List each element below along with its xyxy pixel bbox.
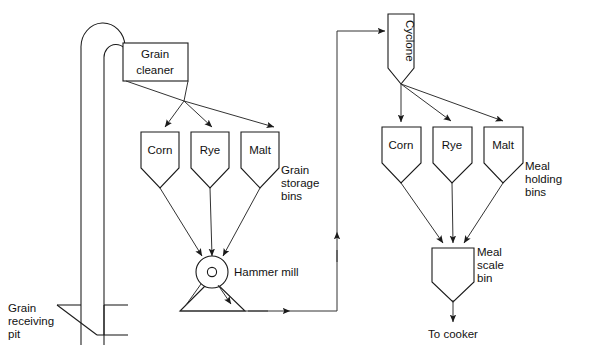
meal-holding-bins-group-label-line1: Meal: [525, 160, 550, 172]
arrow-corn-to-mill: [160, 188, 202, 256]
process-flow-diagram: Grain receiving pit Grain cleaner Corn R…: [0, 0, 590, 360]
grain-receiving-pit-label-line1: Grain: [8, 302, 36, 314]
meal-bin-malt-label: Malt: [492, 139, 515, 151]
hammer-mill-label: Hammer mill: [234, 266, 299, 278]
cyclone-distribution-lines: [401, 84, 503, 122]
hammer-mill-shape: [180, 256, 245, 311]
meal-scale-bin-label-line2: scale: [477, 259, 504, 271]
bucket-elevator: [81, 23, 128, 345]
grain-receiving-pit-shape: [57, 305, 128, 335]
arrow-cleaner-to-corn-bin: [165, 101, 184, 127]
grain-storage-bins-group-label-line1: Grain: [281, 164, 309, 176]
grain-bin-malt-label: Malt: [249, 144, 272, 156]
storage-bins-to-hammer-mill-lines: [160, 188, 260, 256]
grain-receiving-pit-label-line3: pit: [8, 328, 21, 340]
grain-cleaner-label-line2: cleaner: [136, 64, 174, 76]
grain-cleaner-label-line1: Grain: [141, 48, 169, 60]
grain-bin-rye-label: Rye: [200, 144, 220, 156]
meal-bin-corn-label: Corn: [389, 139, 414, 151]
arrow-meal-rye-to-scale: [452, 183, 453, 243]
grain-storage-bins-group-label-line2: storage: [281, 177, 319, 189]
meal-holding-bins-group-label-line3: bins: [525, 186, 546, 198]
meal-holding-bins-group-label-line2: holding: [525, 173, 562, 185]
meal-scale-bin-label-line3: bin: [477, 272, 492, 284]
grain-receiving-pit-label-line2: receiving: [8, 315, 54, 327]
grain-bin-corn: [141, 132, 179, 188]
arrow-malt-to-mill: [223, 188, 260, 256]
meal-scale-bin-label-line1: Meal: [477, 246, 502, 258]
cyclone-label: Cyclone: [404, 20, 416, 62]
grain-bin-malt: [241, 132, 279, 188]
meal-bin-malt: [484, 127, 523, 183]
hammer-mill-rotor-icon: [207, 267, 216, 276]
grain-bin-rye: [191, 132, 229, 188]
arrow-meal-corn-to-scale: [401, 183, 443, 243]
grain-bin-corn-label: Corn: [148, 144, 173, 156]
meal-bins-to-scale-bin-lines: [401, 183, 503, 243]
arrow-meal-malt-to-scale: [464, 183, 503, 243]
flow-diagram-svg: Grain receiving pit Grain cleaner Corn R…: [0, 0, 590, 360]
meal-bin-rye: [433, 127, 472, 183]
cleaner-distribution-lines: [126, 81, 274, 127]
arrow-cyclone-to-rye-bin: [401, 84, 451, 121]
meal-bin-rye-label: Rye: [442, 139, 462, 151]
to-cooker-label: To cooker: [428, 328, 478, 340]
meal-bin-corn: [382, 127, 421, 183]
arrow-rye-to-mill: [210, 188, 212, 256]
arrow-cyclone-to-malt-bin: [401, 84, 503, 121]
meal-scale-bin-shape: [432, 248, 474, 302]
grain-storage-bins-group-label-line3: bins: [281, 190, 302, 202]
